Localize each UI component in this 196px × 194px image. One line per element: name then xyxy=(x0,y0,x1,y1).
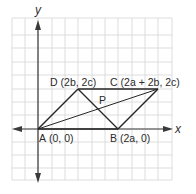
label-a: A(0, 0) xyxy=(39,132,74,144)
point-a-coords: (0, 0) xyxy=(49,132,74,144)
label-c: C(2a + 2b, 2c) xyxy=(110,76,180,88)
point-b-coords: (2a, 0) xyxy=(120,132,150,144)
point-a-name: A xyxy=(39,132,46,144)
x-axis-right-arrow-icon xyxy=(163,126,173,132)
y-axis-down-arrow-icon xyxy=(35,173,41,183)
point-c-coords: (2a + 2b, 2c) xyxy=(121,76,180,88)
point-c-name: C xyxy=(110,76,118,88)
svg-text:B(2a, 0): B(2a, 0) xyxy=(110,132,150,144)
x-axis-left-arrow-icon xyxy=(12,126,22,132)
segment-bc xyxy=(118,89,158,129)
x-axis-label: x xyxy=(174,122,182,136)
y-axis-label: y xyxy=(34,3,42,17)
label-b: B(2a, 0) xyxy=(110,132,150,144)
y-axis-up-arrow-icon xyxy=(35,20,41,30)
point-d-name: D xyxy=(50,76,58,88)
label-d: D(2b, 2c) xyxy=(50,76,96,88)
diagonal-bd xyxy=(78,89,118,129)
point-p-label: P xyxy=(99,94,106,106)
point-b-name: B xyxy=(110,132,117,144)
parallelogram xyxy=(38,89,158,129)
segment-da xyxy=(38,89,78,129)
svg-text:D(2b, 2c): D(2b, 2c) xyxy=(50,76,96,88)
coordinate-diagram: y x D(2b, 2c) C(2a + 2b, 2c) A(0, 0) B(2… xyxy=(0,0,196,194)
svg-text:A(0, 0): A(0, 0) xyxy=(39,132,74,144)
axes xyxy=(12,20,173,183)
point-d-coords: (2b, 2c) xyxy=(61,76,97,88)
svg-text:C(2a + 2b, 2c): C(2a + 2b, 2c) xyxy=(110,76,180,88)
